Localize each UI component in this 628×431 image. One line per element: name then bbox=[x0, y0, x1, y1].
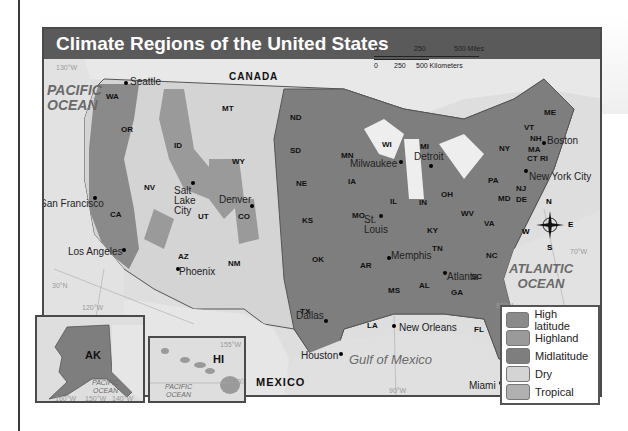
grid-label-120w: 120°W bbox=[82, 304, 103, 311]
map-legend: High latitude Highland Midlatitude Dry T… bbox=[500, 305, 600, 405]
grid-label-70w: 70°W bbox=[570, 248, 587, 255]
city-new-orleans: New Orleans bbox=[399, 323, 457, 333]
state-oh: OH bbox=[441, 190, 453, 199]
label-pacific-ocean-ak: PACIFIC OCEAN bbox=[92, 379, 119, 395]
compass-e: E bbox=[568, 220, 573, 229]
state-ct: CT bbox=[527, 154, 538, 163]
state-nd: ND bbox=[290, 113, 302, 122]
state-fl: FL bbox=[474, 325, 484, 334]
state-tn: TN bbox=[432, 244, 443, 253]
compass-n: N bbox=[546, 197, 552, 206]
grid-label-20n: 20°N bbox=[233, 378, 246, 385]
city-houston: Houston bbox=[301, 351, 338, 361]
city-dot-new-york-city bbox=[524, 169, 528, 173]
swatch-dry bbox=[506, 366, 530, 382]
city-milwaukee: Milwaukee bbox=[350, 159, 397, 169]
map-title: Climate Regions of the United States bbox=[44, 29, 600, 59]
grid-label-155w: 155°W bbox=[220, 341, 241, 348]
compass-w: W bbox=[522, 227, 530, 236]
state-mo: MO bbox=[352, 211, 365, 220]
city-boston: Boston bbox=[547, 136, 578, 146]
grid-label-90w: 90°W bbox=[389, 387, 406, 394]
city-dot-seattle bbox=[124, 81, 128, 85]
state-id: ID bbox=[174, 141, 182, 150]
swatch-high-latitude bbox=[506, 312, 529, 328]
label-mexico: MEXICO bbox=[256, 376, 305, 388]
city-dot-boston bbox=[542, 141, 546, 145]
label-gulf-of-mexico: Gulf of Mexico bbox=[349, 352, 432, 367]
state-ny: NY bbox=[499, 144, 510, 153]
state-nh: NH bbox=[530, 134, 542, 143]
state-il: IL bbox=[390, 197, 397, 206]
city-los-angeles: Los Angeles bbox=[68, 247, 123, 257]
page-margin-rule bbox=[18, 0, 20, 431]
city-dallas: Dallas bbox=[296, 311, 324, 321]
state-sd: SD bbox=[290, 146, 301, 155]
compass-s: S bbox=[547, 243, 552, 252]
grid-label-160w: 160°W bbox=[55, 395, 76, 402]
swatch-tropical bbox=[506, 384, 530, 400]
legend-item-tropical: Tropical bbox=[506, 383, 594, 401]
swatch-highland bbox=[506, 330, 530, 346]
state-la: LA bbox=[367, 321, 378, 330]
state-nm: NM bbox=[228, 259, 240, 268]
city-miami: Miami bbox=[469, 381, 496, 391]
state-or: OR bbox=[121, 125, 133, 134]
hawaii-inset: HI PACIFIC OCEAN 155°W 20°N bbox=[148, 336, 246, 403]
legend-item-dry: Dry bbox=[506, 365, 594, 383]
state-wi: WI bbox=[382, 140, 392, 149]
state-ia: IA bbox=[348, 177, 356, 186]
city-phoenix: Phoenix bbox=[179, 267, 215, 277]
label-canada: CANADA bbox=[229, 71, 278, 82]
city-detroit: Detroit bbox=[414, 152, 443, 162]
state-vt: VT bbox=[524, 123, 534, 132]
state-hi: HI bbox=[213, 353, 224, 365]
swatch-midlatitude bbox=[506, 348, 530, 364]
grid-label-30n: 30°N bbox=[52, 282, 68, 289]
city-dot-detroit bbox=[429, 164, 433, 168]
state-ak: AK bbox=[85, 349, 101, 361]
state-ne: NE bbox=[296, 179, 307, 188]
state-ca: CA bbox=[110, 210, 122, 219]
grid-label-150w: 150°W bbox=[85, 395, 106, 402]
state-ms: MS bbox=[388, 286, 400, 295]
state-nc: NC bbox=[486, 251, 498, 260]
city-denver: Denver bbox=[219, 195, 251, 205]
city-dot-los-angeles bbox=[122, 248, 126, 252]
state-ga: GA bbox=[451, 288, 463, 297]
city-dot-milwaukee bbox=[399, 160, 403, 164]
city-san-francisco: San Francisco bbox=[42, 199, 90, 209]
city-atlanta: Atlanta bbox=[447, 272, 478, 282]
scale-bar: 0 250 500 Miles 0 250 500 Kilometers bbox=[374, 45, 504, 75]
city-dot-houston bbox=[339, 352, 343, 356]
state-co: CO bbox=[238, 212, 250, 221]
state-in: IN bbox=[419, 198, 427, 207]
city-st-louis: St. Louis bbox=[364, 215, 394, 235]
label-atlantic-ocean: ATLANTIC OCEAN bbox=[509, 261, 573, 291]
state-ma: MA bbox=[528, 145, 540, 154]
city-seattle: Seattle bbox=[130, 77, 161, 87]
label-pacific-ocean: PACIFIC OCEAN bbox=[47, 83, 102, 113]
state-va: VA bbox=[484, 219, 495, 228]
state-md: MD bbox=[498, 194, 510, 203]
state-ky: KY bbox=[427, 226, 438, 235]
compass-icon bbox=[530, 205, 570, 245]
grid-label-140w: 140°W bbox=[112, 395, 133, 402]
legend-item-high-latitude: High latitude bbox=[506, 311, 594, 329]
state-nv: NV bbox=[144, 183, 155, 192]
city-dot-salt-lake-city bbox=[191, 181, 195, 185]
state-nj: NJ bbox=[516, 184, 526, 193]
city-dot-dallas bbox=[324, 319, 328, 323]
state-de: DE bbox=[516, 195, 527, 204]
state-me: ME bbox=[544, 108, 556, 117]
state-ar: AR bbox=[360, 261, 372, 270]
state-wv: WV bbox=[461, 209, 474, 218]
grid-label-130w: 130°W bbox=[56, 64, 77, 71]
alaska-inset: AK PACIFIC OCEAN 160°W 150°W 140°W bbox=[35, 315, 145, 403]
state-al: AL bbox=[419, 281, 430, 290]
state-wa: WA bbox=[106, 92, 119, 101]
legend-item-midlatitude: Midlatitude bbox=[506, 347, 594, 365]
state-mt: MT bbox=[222, 104, 234, 113]
state-ri: RI bbox=[540, 154, 548, 163]
city-memphis: Memphis bbox=[391, 251, 432, 261]
